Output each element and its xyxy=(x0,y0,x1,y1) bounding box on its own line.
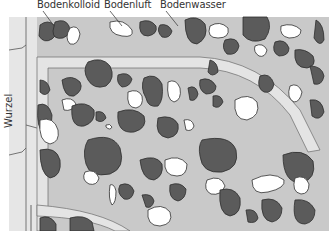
label-root: Wurzel xyxy=(3,94,14,128)
label-soil-air: Bodenluft xyxy=(104,0,151,10)
colloid-particle xyxy=(199,138,236,172)
air-pore xyxy=(106,124,112,129)
soil-diagram xyxy=(0,0,329,231)
air-pore xyxy=(235,96,258,120)
colloid-particle xyxy=(118,110,145,132)
air-pore xyxy=(128,91,143,108)
label-soil-water: Bodenwasser xyxy=(160,0,226,10)
air-pore xyxy=(209,23,228,38)
air-pore xyxy=(294,177,309,194)
colloid-particle xyxy=(157,117,178,138)
label-soil-colloid: Bodenkolloid xyxy=(37,0,100,10)
colloid-particle xyxy=(243,17,270,41)
colloid-particle xyxy=(223,39,239,54)
air-pore xyxy=(148,206,171,226)
colloid-particle xyxy=(84,137,121,175)
air-pore xyxy=(165,158,187,176)
